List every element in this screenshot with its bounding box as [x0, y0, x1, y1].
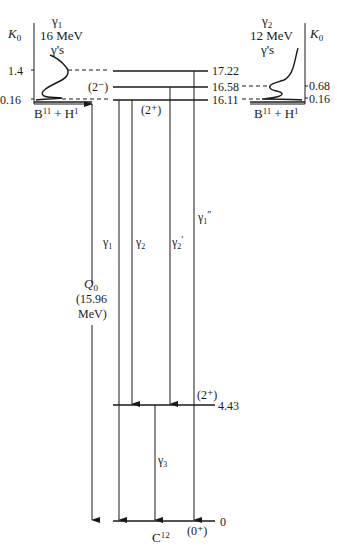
q-value-arrow: Q0 (15.96 MeV) [76, 104, 107, 520]
left-tick-label-1-4: 1.4 [8, 64, 23, 78]
right-title-suffix: γ's [260, 42, 274, 57]
q-symbol: Q0 [84, 276, 98, 293]
left-tick-label-0-16: 0.16 [0, 93, 21, 107]
q-unit: MeV) [78, 307, 107, 321]
level-16-58-spin: (2⁻) [88, 80, 108, 94]
level-ground-spin: (0⁺) [187, 524, 207, 538]
energy-levels: 17.22 16.58 (2⁻) 16.11 (2⁺) 4.43 (2⁺) 0 … [88, 64, 239, 545]
level-16-11-spin: (2⁺) [141, 103, 161, 117]
left-spectrum-curve [36, 55, 68, 100]
right-title-energy: 12 MeV [250, 28, 294, 43]
left-k0-label: K0 [7, 26, 22, 43]
level-ground-energy: 0 [220, 515, 226, 529]
level-16-11-energy: 16.11 [212, 93, 239, 107]
nucleus-label: C12 [152, 530, 170, 545]
level-4-43-energy: 4.43 [218, 399, 239, 413]
left-title-suffix: γ's [50, 42, 64, 57]
level-4-43-spin: (2⁺) [197, 388, 217, 402]
right-spectrum: K0 γ2 12 MeV γ's 0.68 0.16 B11+H1 [242, 13, 330, 121]
gamma2-prime-label: γ2′ [171, 234, 184, 251]
level-16-58-energy: 16.58 [212, 80, 239, 94]
gamma1-double-prime-label: γ1″ [197, 209, 211, 226]
right-tick-label-0-16: 0.16 [309, 92, 330, 106]
q-value: (15.96 [76, 292, 107, 306]
right-tick-label-0-68: 0.68 [309, 79, 330, 93]
transitions: γ1 γ2 γ2′ γ1″ γ3 [102, 71, 211, 520]
left-reaction-label: B11+H1 [34, 106, 79, 121]
level-17-22-energy: 17.22 [212, 64, 239, 78]
left-title-energy: 16 MeV [40, 28, 84, 43]
left-spectrum: K0 γ1 16 MeV γ's 1.4 0.16 B11+H1 [0, 13, 110, 121]
energy-level-diagram: K0 γ1 16 MeV γ's 1.4 0.16 B11+H1 K0 γ2 1… [0, 0, 337, 548]
gamma1-label: γ1 [102, 235, 112, 251]
gamma3-label: γ3 [157, 453, 167, 469]
gamma2-label: γ2 [135, 235, 145, 251]
right-reaction-label: B11+H1 [254, 106, 299, 121]
right-k0-label: K0 [309, 26, 324, 43]
